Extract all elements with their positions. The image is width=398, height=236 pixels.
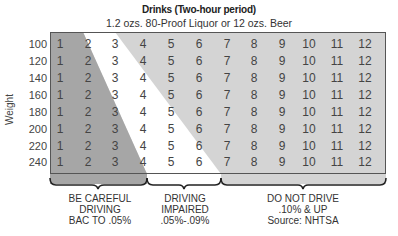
legend-careful-name: BE CAREFUL DRIVING bbox=[48, 193, 152, 215]
table-cell: 3 bbox=[103, 54, 127, 68]
table-cell: 2 bbox=[76, 155, 100, 169]
table-cell: 2 bbox=[76, 105, 100, 119]
table-cell: 10 bbox=[297, 71, 321, 85]
table-cell: 9 bbox=[270, 105, 294, 119]
legend-impaired: DRIVING IMPAIRED .05%-.09% bbox=[142, 193, 228, 226]
table-cell: 11 bbox=[325, 37, 349, 51]
row-label: 240 bbox=[22, 156, 47, 168]
table-cell: 6 bbox=[187, 37, 211, 51]
table-cell: 11 bbox=[325, 105, 349, 119]
table-cell: 8 bbox=[242, 71, 266, 85]
table-cell: 2 bbox=[76, 37, 100, 51]
table-cell: 8 bbox=[242, 88, 266, 102]
table-cell: 7 bbox=[215, 105, 239, 119]
table-cell: 1 bbox=[48, 37, 72, 51]
table-cell: 6 bbox=[187, 71, 211, 85]
table-cell: 6 bbox=[187, 105, 211, 119]
table-cell: 10 bbox=[297, 122, 321, 136]
table-cell: 12 bbox=[353, 122, 377, 136]
table-cell: 4 bbox=[131, 54, 155, 68]
table-cell: 8 bbox=[242, 122, 266, 136]
table-cell: 5 bbox=[159, 88, 183, 102]
table-cell: 6 bbox=[187, 54, 211, 68]
table-cell: 9 bbox=[270, 139, 294, 153]
table-cell: 5 bbox=[159, 54, 183, 68]
legend-impaired-detail: .05%-.09% bbox=[142, 215, 228, 226]
legend-do-not-drive-detail: .10% & UP bbox=[253, 204, 353, 215]
table-cell: 5 bbox=[159, 139, 183, 153]
table-cell: 2 bbox=[76, 54, 100, 68]
table-cell: 6 bbox=[187, 88, 211, 102]
legend-careful-detail: BAC TO .05% bbox=[48, 215, 152, 226]
table-cell: 3 bbox=[103, 37, 127, 51]
table-cell: 8 bbox=[242, 105, 266, 119]
table-cell: 7 bbox=[215, 37, 239, 51]
table-cell: 10 bbox=[297, 37, 321, 51]
table-cell: 12 bbox=[353, 88, 377, 102]
table-cell: 9 bbox=[270, 37, 294, 51]
table-cell: 2 bbox=[76, 139, 100, 153]
table-cell: 1 bbox=[48, 71, 72, 85]
legend-do-not-drive-name: DO NOT DRIVE bbox=[253, 193, 353, 204]
table-cell: 8 bbox=[242, 155, 266, 169]
table-cell: 3 bbox=[103, 88, 127, 102]
table-cell: 4 bbox=[131, 105, 155, 119]
table-cell: 7 bbox=[215, 139, 239, 153]
table-cell: 1 bbox=[48, 122, 72, 136]
legend-careful: BE CAREFUL DRIVING BAC TO .05% bbox=[48, 193, 152, 226]
table-cell: 6 bbox=[187, 155, 211, 169]
table-cell: 12 bbox=[353, 37, 377, 51]
table-cell: 1 bbox=[48, 139, 72, 153]
table-cell: 11 bbox=[325, 54, 349, 68]
table-cell: 6 bbox=[187, 139, 211, 153]
table-cell: 4 bbox=[131, 139, 155, 153]
table-cell: 4 bbox=[131, 122, 155, 136]
table-cell: 9 bbox=[270, 155, 294, 169]
table-cell: 7 bbox=[215, 71, 239, 85]
table-cell: 3 bbox=[103, 122, 127, 136]
table-cell: 12 bbox=[353, 105, 377, 119]
table-cell: 1 bbox=[48, 155, 72, 169]
table-cell: 7 bbox=[215, 122, 239, 136]
table-cell: 3 bbox=[103, 71, 127, 85]
table-cell: 4 bbox=[131, 71, 155, 85]
table-cell: 11 bbox=[325, 139, 349, 153]
table-cell: 10 bbox=[297, 88, 321, 102]
table-cell: 5 bbox=[159, 71, 183, 85]
table-cell: 4 bbox=[131, 88, 155, 102]
row-label: 180 bbox=[22, 106, 47, 118]
brace-impaired bbox=[147, 178, 221, 189]
table-cell: 2 bbox=[76, 122, 100, 136]
table-cell: 4 bbox=[131, 155, 155, 169]
table-cell: 1 bbox=[48, 54, 72, 68]
table-cell: 6 bbox=[187, 122, 211, 136]
table-cell: 12 bbox=[353, 54, 377, 68]
table-cell: 8 bbox=[242, 54, 266, 68]
table-cell: 3 bbox=[103, 155, 127, 169]
table-cell: 9 bbox=[270, 88, 294, 102]
legend-impaired-name: DRIVING IMPAIRED bbox=[142, 193, 228, 215]
table-cell: 10 bbox=[297, 139, 321, 153]
table-cell: 9 bbox=[270, 122, 294, 136]
row-label: 220 bbox=[22, 140, 47, 152]
table-cell: 10 bbox=[297, 155, 321, 169]
table-cell: 3 bbox=[103, 139, 127, 153]
table-cell: 5 bbox=[159, 155, 183, 169]
table-cell: 12 bbox=[353, 71, 377, 85]
table-cell: 11 bbox=[325, 122, 349, 136]
table-cell: 9 bbox=[270, 54, 294, 68]
table-cell: 4 bbox=[131, 37, 155, 51]
table-cell: 11 bbox=[325, 71, 349, 85]
table-cell: 2 bbox=[76, 88, 100, 102]
row-label: 120 bbox=[22, 55, 47, 67]
table-cell: 12 bbox=[353, 139, 377, 153]
table-cell: 5 bbox=[159, 122, 183, 136]
table-cell: 9 bbox=[270, 71, 294, 85]
legend-do-not-drive: DO NOT DRIVE .10% & UP Source: NHTSA bbox=[253, 193, 353, 226]
table-cell: 7 bbox=[215, 54, 239, 68]
row-label: 200 bbox=[22, 123, 47, 135]
table-cell: 3 bbox=[103, 105, 127, 119]
table-cell: 5 bbox=[159, 37, 183, 51]
table-cell: 2 bbox=[76, 71, 100, 85]
row-label: 160 bbox=[22, 89, 47, 101]
